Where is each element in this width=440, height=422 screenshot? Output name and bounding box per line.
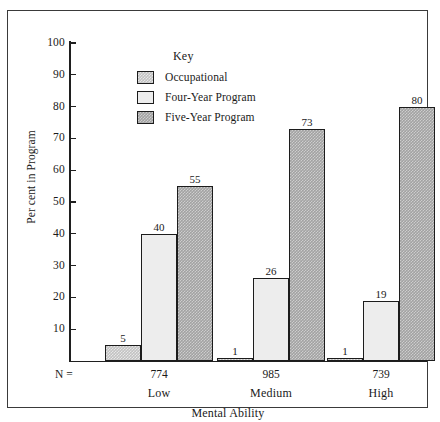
bar-value-label: 1 <box>342 346 348 357</box>
bar-high-four-year-program: 19 <box>363 301 399 361</box>
y-tick-label-text: 50 <box>31 196 65 208</box>
bar-high-five-year-program: 80 <box>399 107 435 361</box>
bar-value-label: 80 <box>412 95 423 106</box>
bar-high-occupational: 1 <box>327 358 363 361</box>
y-tick-label-50: 50 <box>23 196 65 208</box>
y-tick-label-90: 90 <box>23 69 65 81</box>
bar-value-label: 5 <box>120 333 126 344</box>
bar-value-label: 26 <box>266 266 277 277</box>
bar-medium-occupational: 1 <box>217 358 253 361</box>
group-label-high: High <box>341 387 421 400</box>
bar-value-label: 19 <box>376 289 387 300</box>
y-tick-label-60: 60 <box>23 164 65 176</box>
y-tick-label-text: 90 <box>31 69 65 81</box>
bar-low-occupational: 5 <box>105 345 141 361</box>
bar-low-five-year-program: 55 <box>177 186 213 361</box>
y-tick-label-80: 80 <box>23 101 65 113</box>
bar-value-label: 55 <box>190 174 201 185</box>
figure-frame: Per cent in Program 10203040506070809010… <box>7 10 428 408</box>
bar-value-label: 40 <box>154 222 165 233</box>
y-tick-label-40: 40 <box>23 228 65 240</box>
y-tick-label-text: 40 <box>31 228 65 240</box>
y-tick-label-text: 100 <box>31 37 65 49</box>
plot-area: 540551267311980 <box>69 43 427 361</box>
y-tick-label-text: 80 <box>31 101 65 113</box>
y-tick-label-text: 10 <box>31 323 65 335</box>
y-tick-label-text: 60 <box>31 164 65 176</box>
y-tick-label-30: 30 <box>23 260 65 272</box>
y-tick-label-text: 30 <box>31 260 65 272</box>
bar-medium-four-year-program: 26 <box>253 278 289 361</box>
x-axis-title: Mental Ability <box>8 407 440 420</box>
group-label-medium: Medium <box>231 387 311 400</box>
group-n-low: 774 <box>124 368 194 380</box>
group-label-low: Low <box>119 387 199 400</box>
y-tick-label-100: 100 <box>23 37 65 49</box>
bar-value-label: 73 <box>302 117 313 128</box>
bar-low-four-year-program: 40 <box>141 234 177 361</box>
y-tick-label-10: 10 <box>23 323 65 335</box>
y-tick-label-text: 70 <box>31 132 65 144</box>
bar-value-label: 1 <box>232 346 238 357</box>
group-n-medium: 985 <box>236 368 306 380</box>
y-tick-label-70: 70 <box>23 132 65 144</box>
group-n-high: 739 <box>346 368 416 380</box>
bar-medium-five-year-program: 73 <box>289 129 325 361</box>
y-tick-label-20: 20 <box>23 291 65 303</box>
n-prefix-label: N = <box>55 368 73 380</box>
y-tick-label-text: 20 <box>31 291 65 303</box>
